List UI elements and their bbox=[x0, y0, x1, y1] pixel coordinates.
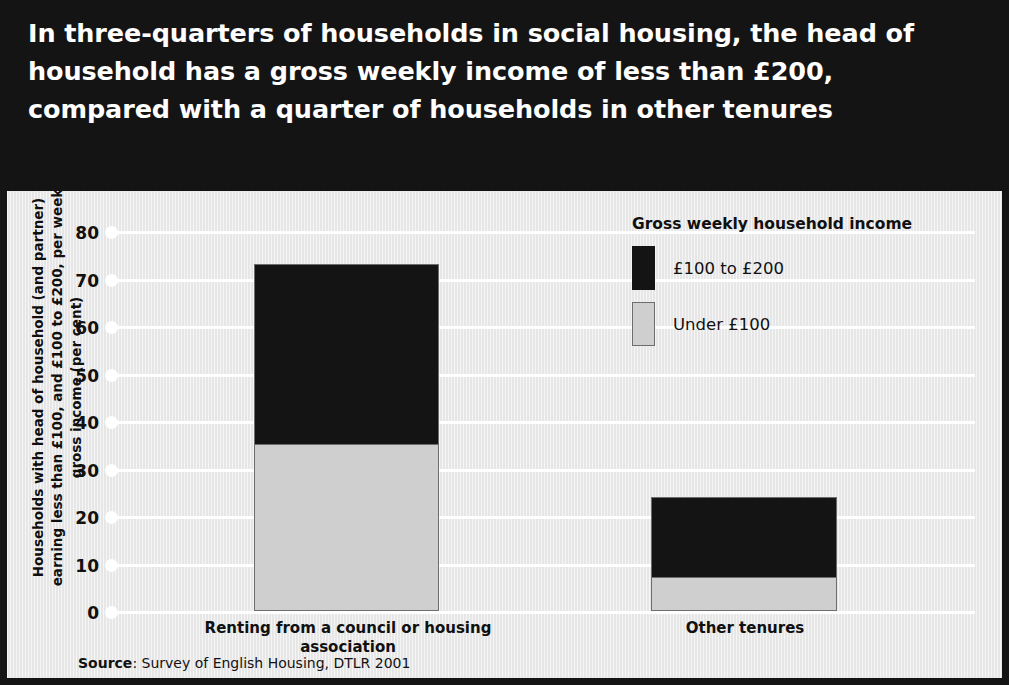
legend-item-100-to-200[interactable]: £100 to £200 bbox=[632, 246, 972, 290]
y-tick-label-0: 0 bbox=[39, 603, 99, 623]
y-tick-label-10: 10 bbox=[39, 556, 99, 576]
tick-dot-20 bbox=[105, 511, 118, 524]
gridline-30 bbox=[113, 469, 975, 472]
source-separator: : bbox=[132, 655, 141, 671]
y-tick-label-20: 20 bbox=[39, 508, 99, 528]
y-tick-label-70: 70 bbox=[39, 271, 99, 291]
legend-item-under-100[interactable]: Under £100 bbox=[632, 302, 972, 346]
legend-swatch-100-to-200 bbox=[632, 246, 655, 290]
source-note: Source: Survey of English Housing, DTLR … bbox=[78, 655, 410, 671]
x-axis-label-other-tenures: Other tenures bbox=[580, 619, 910, 638]
bar-segment-under-100 bbox=[652, 577, 836, 610]
tick-dot-10 bbox=[105, 559, 118, 572]
bar-segment-under-100 bbox=[255, 444, 438, 610]
legend: Gross weekly household income £100 to £2… bbox=[632, 215, 972, 358]
figure-title: In three-quarters of households in socia… bbox=[28, 14, 975, 128]
tick-dot-0 bbox=[105, 606, 118, 619]
source-text: Survey of English Housing, DTLR 2001 bbox=[142, 655, 411, 671]
legend-swatch-under-100 bbox=[632, 302, 655, 346]
tick-dot-30 bbox=[105, 464, 118, 477]
tick-dot-70 bbox=[105, 274, 118, 287]
legend-label-100-to-200: £100 to £200 bbox=[673, 259, 784, 278]
gridline-40 bbox=[113, 421, 975, 424]
tick-dot-50 bbox=[105, 369, 118, 382]
legend-label-under-100: Under £100 bbox=[673, 315, 770, 334]
x-axis-label-renting: Renting from a council or housing associ… bbox=[183, 619, 513, 657]
y-tick-label-80: 80 bbox=[39, 223, 99, 243]
tick-dot-60 bbox=[105, 321, 118, 334]
bar-other-tenures[interactable]: Other tenures bbox=[651, 497, 837, 611]
y-tick-label-40: 40 bbox=[39, 413, 99, 433]
y-tick-label-60: 60 bbox=[39, 318, 99, 338]
y-axis-label: Households with head of household (and p… bbox=[29, 191, 86, 588]
bar-segment-100-to-200 bbox=[652, 498, 836, 579]
bar-segment-100-to-200 bbox=[255, 265, 438, 446]
source-label: Source bbox=[78, 655, 132, 671]
gridline-20 bbox=[113, 516, 975, 519]
figure-root: In three-quarters of households in socia… bbox=[0, 0, 1009, 685]
chart-area: Households with head of household (and p… bbox=[7, 191, 1002, 678]
tick-dot-40 bbox=[105, 416, 118, 429]
gridline-0 bbox=[113, 611, 975, 614]
gridline-50 bbox=[113, 374, 975, 377]
tick-dot-80 bbox=[105, 226, 118, 239]
gridline-10 bbox=[113, 564, 975, 567]
bar-renting-council-housing-association[interactable]: Renting from a council or housing associ… bbox=[254, 264, 439, 611]
y-tick-label-50: 50 bbox=[39, 366, 99, 386]
legend-title: Gross weekly household income bbox=[632, 215, 972, 233]
y-tick-label-30: 30 bbox=[39, 461, 99, 481]
title-banner: In three-quarters of households in socia… bbox=[0, 0, 1009, 191]
